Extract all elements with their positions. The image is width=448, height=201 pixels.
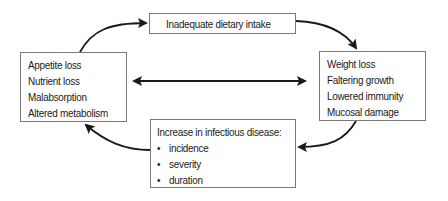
right-box-line: Mucosal damage: [327, 104, 411, 120]
bullet-icon: •: [157, 172, 169, 188]
bullet-item: •severity: [157, 156, 276, 172]
left-box-line: Appetite loss: [28, 57, 112, 73]
left-box-line: Altered metabolism: [28, 105, 112, 121]
right-box-line: Lowered immunity: [327, 88, 411, 104]
top-box-text: Inadequate dietary intake: [166, 16, 277, 32]
bottom-box-title: Increase in infectious disease:: [157, 124, 276, 140]
left-box-line: Nutrient loss: [28, 73, 112, 89]
right-box-line: Faltering growth: [327, 72, 411, 88]
bullet-item: •duration: [157, 172, 276, 188]
left-box-line: Malabsorption: [28, 89, 112, 105]
bottom-box-infectious-disease: Increase in infectious disease: •inciden…: [150, 119, 296, 188]
bullet-item: •incidence: [157, 140, 276, 156]
arrow-right-to-bottom: [299, 121, 356, 147]
bullet-icon: •: [157, 140, 169, 156]
right-box-line: Weight loss: [327, 56, 411, 72]
arrow-left-to-top: [80, 23, 146, 52]
right-box-effects: Weight loss Faltering growth Lowered imm…: [319, 51, 426, 121]
arrow-bottom-to-left: [86, 125, 150, 150]
bullet-icon: •: [157, 156, 169, 172]
top-box-inadequate-intake: Inadequate dietary intake: [149, 13, 296, 34]
arrow-top-to-right: [296, 21, 356, 48]
left-box-causes: Appetite loss Nutrient loss Malabsorptio…: [20, 52, 127, 122]
